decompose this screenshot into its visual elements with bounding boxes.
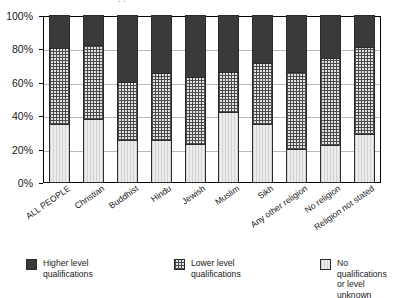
segment-none[interactable] (49, 124, 70, 183)
legend-item-none[interactable]: No qualifications or level unknown (320, 258, 387, 298)
y-tick-label: 20% (12, 145, 33, 155)
y-axis: 0%20%40%60%80%100% (0, 0, 40, 200)
legend-item-higher[interactable]: Higher level qualifications (26, 258, 135, 279)
segment-none[interactable] (252, 124, 273, 183)
bar-religion-not-stated[interactable] (354, 16, 375, 183)
segment-higher[interactable] (83, 15, 104, 46)
legend-swatch-lower-icon (174, 259, 185, 270)
legend-label: No qualifications or level unknown (337, 258, 387, 298)
bar-buddhist[interactable] (117, 16, 138, 183)
bar-sikh[interactable] (252, 16, 273, 183)
segment-lower[interactable] (252, 63, 273, 124)
y-tick-label: 40% (12, 111, 33, 121)
segment-lower[interactable] (286, 72, 307, 150)
segment-none[interactable] (185, 144, 206, 183)
segment-lower[interactable] (185, 77, 206, 145)
segment-none[interactable] (320, 145, 341, 183)
segment-lower[interactable] (83, 45, 104, 119)
segment-higher[interactable] (320, 15, 341, 59)
bar-muslim[interactable] (218, 16, 239, 183)
segment-higher[interactable] (354, 15, 375, 48)
segment-none[interactable] (218, 112, 239, 183)
segment-lower[interactable] (354, 47, 375, 135)
segment-none[interactable] (354, 134, 375, 183)
segment-none[interactable] (286, 149, 307, 183)
segment-higher[interactable] (218, 15, 239, 73)
legend-swatch-higher-icon (26, 259, 37, 270)
legend-label: Lower level qualifications (191, 258, 283, 279)
segment-lower[interactable] (320, 58, 341, 146)
bar-jewish[interactable] (185, 16, 206, 183)
legend-swatch-none-icon (320, 259, 331, 270)
segment-higher[interactable] (151, 15, 172, 74)
x-axis-labels: ALL PEOPLEChristianBuddhistHinduJewishMu… (43, 184, 381, 254)
legend-item-lower[interactable]: Lower level qualifications (174, 258, 283, 279)
segment-higher[interactable] (185, 15, 206, 78)
segment-higher[interactable] (286, 15, 307, 73)
bar-christian[interactable] (83, 16, 104, 183)
segment-none[interactable] (117, 140, 138, 183)
segment-higher[interactable] (252, 15, 273, 64)
cropped-top-glyph: ˙˙ (118, 0, 158, 5)
segment-lower[interactable] (151, 73, 172, 141)
segment-lower[interactable] (49, 48, 70, 124)
segment-higher[interactable] (117, 15, 138, 83)
segment-none[interactable] (83, 119, 104, 183)
bar-hindu[interactable] (151, 16, 172, 183)
chart-legend: Higher level qualificationsLower level q… (26, 258, 386, 292)
y-tick-label: 80% (12, 44, 33, 54)
segment-none[interactable] (151, 140, 172, 183)
segment-higher[interactable] (49, 15, 70, 49)
segment-lower[interactable] (218, 72, 239, 113)
stacked-bar-chart: ˙˙ 0%20%40%60%80%100% ALL PEOPLEChristia… (0, 0, 394, 298)
bar-no-religion[interactable] (320, 16, 341, 183)
segment-lower[interactable] (117, 82, 138, 141)
bar-all-people[interactable] (49, 16, 70, 183)
bars-layer (43, 16, 381, 183)
bar-any-other-religion[interactable] (286, 16, 307, 183)
y-tick-label: 0% (18, 178, 33, 188)
y-tick-label: 100% (6, 11, 33, 21)
legend-label: Higher level qualifications (43, 258, 135, 279)
y-tick-label: 60% (12, 78, 33, 88)
